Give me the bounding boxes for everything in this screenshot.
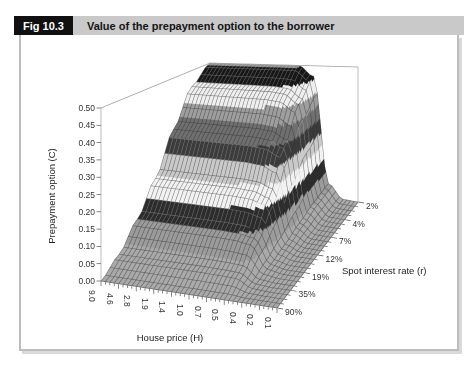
tick-label: 1.4 — [157, 301, 166, 313]
tick-label: 4.6 — [105, 293, 114, 305]
tick-label: 0.00 — [78, 277, 95, 286]
tick-label: 1.9 — [140, 298, 149, 310]
tick-label: 0.15 — [78, 225, 95, 234]
tick-label: 0.4 — [228, 312, 237, 324]
tick-label: 4% — [353, 219, 365, 228]
tick-label: 0.35 — [78, 155, 95, 164]
tick-label: 2.8 — [122, 295, 131, 307]
tick-label: 7% — [339, 237, 351, 246]
tick-label: 1.0 — [175, 304, 184, 316]
tick-label: 0.20 — [78, 207, 95, 216]
tick-label: 0.1 — [263, 317, 272, 329]
tick-label: 0.45 — [78, 121, 95, 130]
tick-label: 35% — [299, 290, 316, 299]
value-axis-title: Prepayment option (C) — [46, 148, 57, 244]
tick-label: 0.05 — [78, 259, 95, 268]
tick-label: 2% — [366, 202, 378, 211]
tick-label: 0.40 — [78, 138, 95, 147]
tick-label: 0.2 — [245, 314, 254, 326]
tick-label: 0.50 — [78, 104, 95, 113]
tick-label: 90% — [285, 308, 302, 317]
tick-label: 0.7 — [193, 306, 202, 318]
surface-chart-canvas — [0, 0, 476, 370]
figure-page: Fig 10.3 Value of the prepayment option … — [0, 0, 476, 370]
tick-label: 0.10 — [78, 242, 95, 251]
tick-label: 0.25 — [78, 190, 95, 199]
tick-label: 0.30 — [78, 173, 95, 182]
tick-label: 0.5 — [210, 309, 219, 321]
tick-label: 12% — [326, 255, 343, 264]
depth-axis-title: Spot interest rate (r) — [342, 265, 426, 276]
tick-label: 19% — [312, 272, 329, 281]
x-axis-title: House price (H) — [137, 332, 204, 343]
tick-label: 9.0 — [87, 290, 96, 302]
